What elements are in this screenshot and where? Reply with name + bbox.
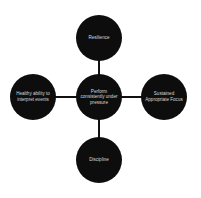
node-right-sustained-focus: Sustained Appropriate Focus <box>141 74 187 120</box>
node-label: Resilience <box>88 35 109 41</box>
node-label: Healthy ability to interpret events <box>13 91 53 102</box>
node-center-perform-under-pressure: Perform consistently under pressure <box>76 74 122 120</box>
node-label: Discipline <box>89 157 109 163</box>
node-label: Perform consistently under pressure <box>79 89 119 106</box>
node-discipline: Discipline <box>76 137 122 183</box>
node-resilience: Resilience <box>76 15 122 61</box>
node-left-interpret-events: Healthy ability to interpret events <box>10 74 56 120</box>
node-label: Sustained Appropriate Focus <box>144 91 184 102</box>
